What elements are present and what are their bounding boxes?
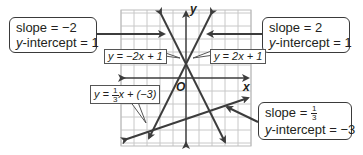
equation-pos2: y = 2x + 1	[210, 49, 266, 64]
slope-text: slope = −2	[16, 20, 90, 35]
slope-text: slope = 13	[265, 105, 345, 122]
line-pos2	[149, 14, 211, 138]
y-axis-label: y	[190, 2, 197, 16]
x-axis-label: x	[243, 80, 250, 94]
equation-third: y = 13x + (−3)	[90, 85, 160, 104]
intercept-text: y-intercept = 1	[16, 35, 90, 50]
callout-slope-neg2: slope = −2 y-intercept = 1	[9, 17, 97, 53]
callout-slope-third: slope = 13 y-intercept = −3	[258, 102, 352, 140]
callout-slope-pos2: slope = 2 y-intercept = 1	[262, 17, 350, 53]
intercept-text: y-intercept = −3	[265, 122, 345, 137]
origin-label: O	[176, 80, 185, 94]
equation-neg2: y = −2x + 1	[104, 49, 167, 64]
slope-text: slope = 2	[269, 20, 343, 35]
intercept-text: y-intercept = 1	[269, 35, 343, 50]
